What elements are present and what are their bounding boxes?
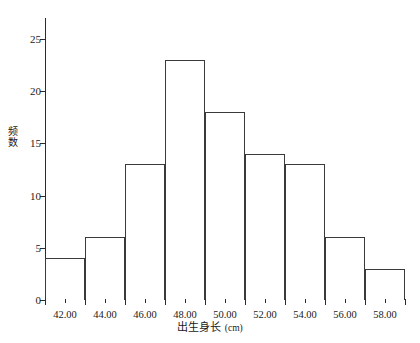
bars-layer <box>45 18 405 300</box>
y-axis-tick-label: 10 <box>30 190 41 201</box>
histogram-bar <box>365 269 405 300</box>
x-axis-tick-mark-minor <box>65 299 66 303</box>
histogram-bar <box>285 164 325 300</box>
y-axis-title-char-1: 频 <box>6 126 20 137</box>
x-axis-tick-mark-minor <box>185 299 186 303</box>
x-axis-tick-mark <box>285 299 286 305</box>
x-axis-tick-mark-minor <box>305 299 306 303</box>
histogram-bar <box>165 60 205 300</box>
x-axis-tick-mark-minor <box>265 299 266 303</box>
histogram-bar <box>45 258 85 300</box>
x-axis-title: 出生身长 (cm) <box>0 318 420 334</box>
x-axis-tick-mark <box>85 299 86 305</box>
x-axis-tick-mark <box>125 299 126 305</box>
x-axis-tick-mark <box>245 299 246 305</box>
x-axis-title-main: 出生身长 <box>177 321 221 334</box>
x-axis-tick-mark-minor <box>225 299 226 303</box>
x-axis-tick-mark <box>205 299 206 305</box>
y-axis-tick-label: 20 <box>30 86 41 97</box>
x-axis-tick-mark <box>325 299 326 305</box>
histogram-bar <box>205 112 245 300</box>
y-axis-tick-label: 0 <box>36 295 42 306</box>
x-axis-tick-mark <box>365 299 366 305</box>
y-axis-tick-label: 25 <box>30 33 41 44</box>
x-axis-tick-mark-minor <box>105 299 106 303</box>
y-axis-tick-label: 15 <box>30 138 41 149</box>
x-axis-tick-mark <box>45 299 46 305</box>
histogram-chart: 频 数 0510152025 42.0044.0046.0048.0050.00… <box>0 0 420 343</box>
x-axis-tick-mark <box>165 299 166 305</box>
x-axis-tick-mark-minor <box>145 299 146 303</box>
plot-area: 0510152025 42.0044.0046.0048.0050.0052.0… <box>45 18 405 300</box>
x-axis-tick-mark-minor <box>345 299 346 303</box>
y-axis-title-char-2: 数 <box>6 137 20 148</box>
x-axis-tick-mark <box>405 299 406 305</box>
histogram-bar <box>325 237 365 300</box>
x-axis-title-unit: (cm) <box>225 323 243 333</box>
histogram-bar <box>245 154 285 300</box>
y-axis-tick-label: 5 <box>36 242 42 253</box>
x-axis-tick-mark-minor <box>385 299 386 303</box>
histogram-bar <box>125 164 165 300</box>
y-axis-title: 频 数 <box>6 126 20 148</box>
histogram-bar <box>85 237 125 300</box>
